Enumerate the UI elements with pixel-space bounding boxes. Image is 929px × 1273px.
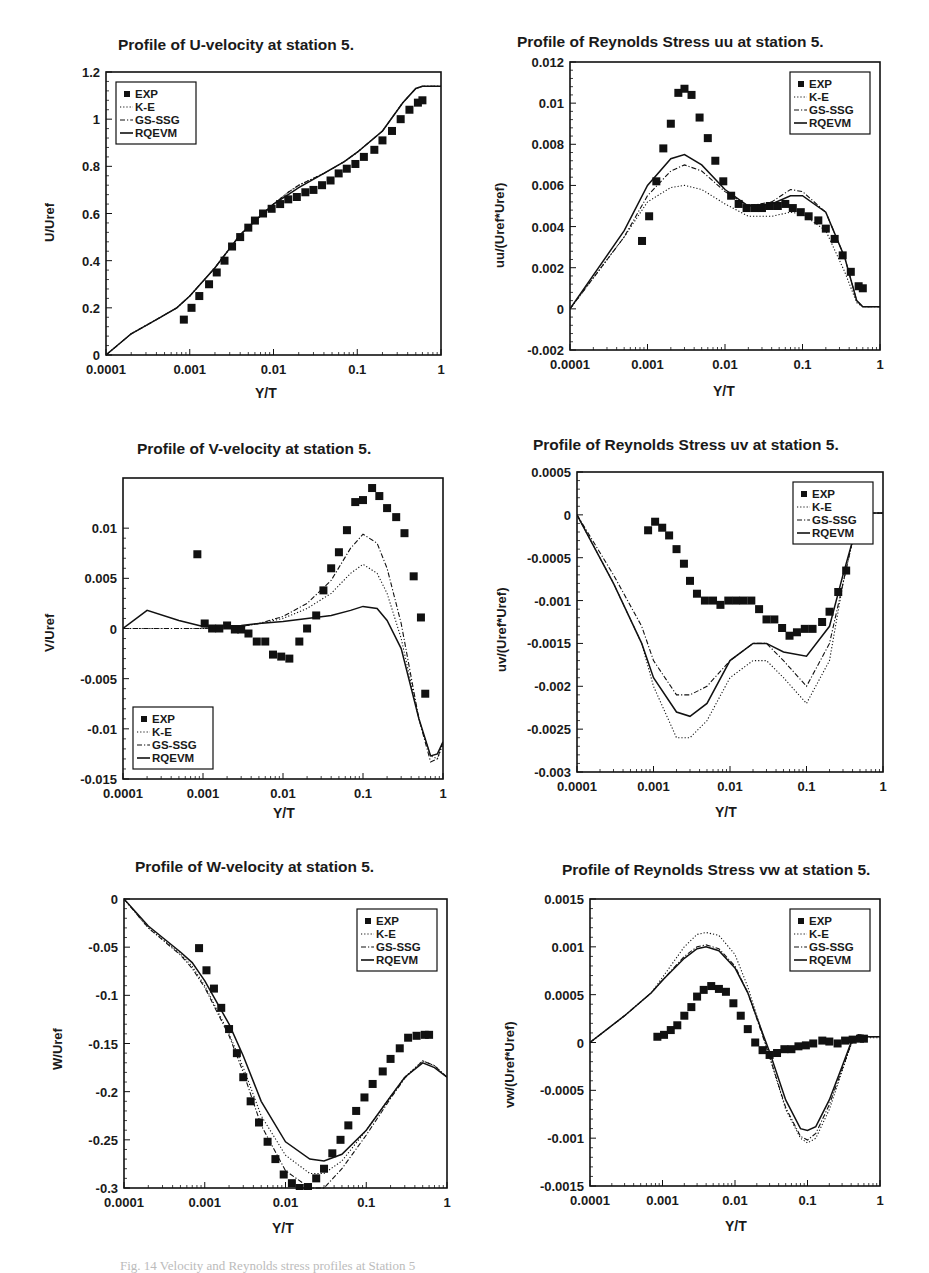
data-marker <box>780 1045 788 1053</box>
series-line-rqevm <box>590 947 880 1131</box>
data-marker <box>773 1049 781 1057</box>
data-marker <box>707 982 715 990</box>
data-marker <box>667 1026 675 1034</box>
legend-marker-icon <box>798 918 804 924</box>
data-marker <box>759 1046 767 1054</box>
series-line-gs-ssg <box>590 945 880 1140</box>
y-tick-label: 0.0005 <box>544 988 584 1003</box>
y-tick-label: -0.0005 <box>540 1083 584 1098</box>
chart-title: Profile of Reynolds Stress vw at station… <box>562 861 870 879</box>
data-marker <box>860 1035 868 1043</box>
x-axis-label: Y/T <box>725 1218 747 1234</box>
data-marker <box>802 1041 810 1049</box>
data-marker <box>841 1037 849 1045</box>
y-axis-label: vw/(Uref*Uref) <box>502 1021 517 1108</box>
data-marker <box>680 1012 688 1020</box>
data-marker <box>660 1031 668 1039</box>
x-tick-label: 0.1 <box>798 1193 816 1208</box>
x-tick-label: 0.001 <box>646 1193 679 1208</box>
data-marker <box>700 986 708 994</box>
data-marker <box>766 1051 774 1059</box>
plot-frame <box>590 899 880 1186</box>
legend-label: GS-SSG <box>809 941 854 953</box>
data-marker <box>744 1025 752 1033</box>
y-tick-label: 0.0015 <box>544 892 584 907</box>
data-marker <box>653 1033 661 1041</box>
data-marker <box>849 1036 857 1044</box>
legend: EXPK-EGS-SSGRQEVM <box>790 909 870 971</box>
data-marker <box>729 999 737 1007</box>
legend-label: K-E <box>809 928 829 940</box>
data-marker <box>825 1038 833 1046</box>
data-marker <box>834 1039 842 1047</box>
series-line-k-e <box>590 933 880 1144</box>
y-tick-label: -0.001 <box>547 1131 584 1146</box>
y-tick-label: 0 <box>577 1036 584 1051</box>
x-tick-label: 0.0001 <box>570 1193 610 1208</box>
legend-label: EXP <box>809 915 832 927</box>
chart-vw-stress: Profile of Reynolds Stress vw at station… <box>0 0 929 1273</box>
data-marker <box>809 1039 817 1047</box>
x-tick-label: 1 <box>876 1193 883 1208</box>
x-tick-label: 0.01 <box>722 1193 747 1208</box>
data-marker <box>787 1045 795 1053</box>
data-marker <box>715 985 723 993</box>
plot-area: 0.00010.0010.010.11-0.0015-0.001-0.00050… <box>0 0 929 1273</box>
legend-label: RQEVM <box>809 954 851 966</box>
y-tick-label: -0.0015 <box>540 1179 584 1194</box>
data-marker <box>751 1039 759 1047</box>
data-marker <box>687 1003 695 1011</box>
data-marker <box>693 993 701 1001</box>
data-marker <box>737 1012 745 1020</box>
data-marker <box>856 1035 864 1043</box>
data-marker <box>673 1021 681 1029</box>
figure-caption: Fig. 14 Velocity and Reynolds stress pro… <box>120 1258 415 1273</box>
data-marker <box>794 1042 802 1050</box>
y-tick-label: 0.001 <box>551 940 584 955</box>
data-marker <box>722 988 730 996</box>
data-marker <box>818 1037 826 1045</box>
